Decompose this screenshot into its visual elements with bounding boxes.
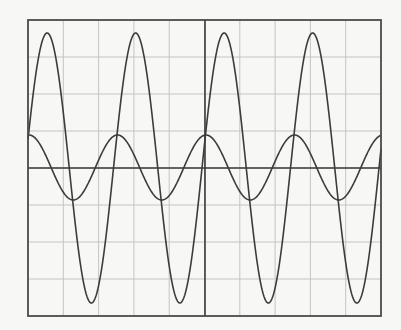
waveform-chart	[0, 0, 401, 330]
oscilloscope-display	[0, 0, 401, 330]
